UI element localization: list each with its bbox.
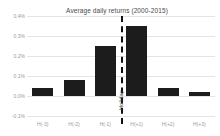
chart-title: Average daily returns (2000-2015): [0, 7, 220, 14]
x-axis-tick-label: H(+1): [121, 121, 153, 128]
bar: [64, 80, 85, 96]
bar: [189, 92, 210, 96]
bar: [158, 88, 179, 96]
y-axis-tick-label: 0.2%: [1, 53, 25, 59]
x-axis-tick-label: H(-2): [58, 121, 90, 128]
bar: [95, 46, 116, 96]
x-axis-tick-label: H(+3): [183, 121, 215, 128]
x-axis-tick-label: H(-1): [89, 121, 121, 128]
bar: [32, 88, 53, 96]
x-axis-tick-label: H(+2): [152, 121, 184, 128]
holiday-divider-label: Holiday: [118, 90, 124, 110]
chart-container: Average daily returns (2000-2015) 0.4%0.…: [0, 0, 220, 136]
y-axis-tick-label: 0.1%: [1, 73, 25, 79]
y-axis: 0.4%0.3%0.2%0.1%0.0%-0.1%: [0, 16, 25, 116]
x-axis: H(-3)H(-2)H(-1)H(+1)H(+2)H(+3): [27, 121, 215, 133]
x-axis-tick-label: H(-3): [27, 121, 59, 128]
y-axis-tick-label: 0.4%: [1, 13, 25, 19]
bar: [126, 26, 147, 96]
y-axis-tick-label: -0.1%: [1, 113, 25, 119]
y-axis-tick-label: 0.0%: [1, 93, 25, 99]
y-axis-tick-label: 0.3%: [1, 33, 25, 39]
